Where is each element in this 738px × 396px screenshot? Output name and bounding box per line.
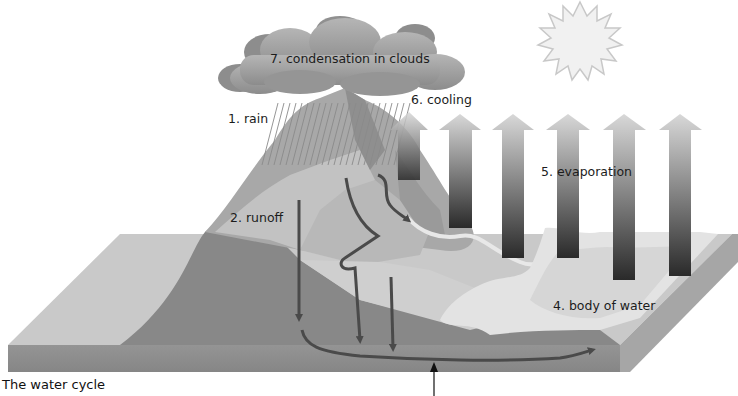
water-cycle-diagram: 7. condensation in clouds 6. cooling 1. …	[0, 0, 738, 396]
sun-icon	[538, 2, 622, 80]
label-cooling: 6. cooling	[411, 94, 472, 107]
label-body-of-water: 4. body of water	[553, 300, 655, 313]
label-rain: 1. rain	[228, 113, 268, 126]
label-evaporation: 5. evaporation	[541, 166, 632, 179]
figure-caption: The water cycle	[2, 377, 105, 392]
label-condensation: 7. condensation in clouds	[270, 53, 430, 66]
label-runoff: 2. runoff	[230, 212, 283, 225]
